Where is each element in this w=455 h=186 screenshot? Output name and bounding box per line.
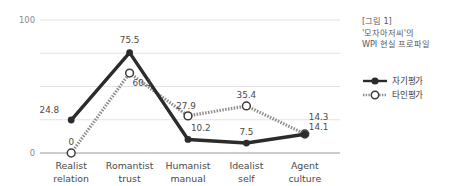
data-point-self [243, 140, 250, 147]
x-axis-labels-group: RealistrelationRomantisttrustHumanistman… [53, 160, 321, 184]
x-axis-category-label: Agent [291, 160, 319, 171]
data-value-labels-group: 060.127.935.414.324.875.510.27.514.1 [40, 35, 329, 147]
x-axis-category-label: Humanist [166, 160, 211, 171]
chart-plot-area: 1000 RealistrelationRomantisttrustHumani… [0, 0, 350, 186]
line-chart-svg: 1000 RealistrelationRomantisttrustHumani… [0, 0, 350, 186]
chart-legend: 자기평가 타인평가 [361, 73, 453, 101]
data-point-self [68, 117, 75, 124]
x-axis-category-label: self [238, 173, 255, 184]
value-label-other: 35.4 [237, 90, 257, 100]
value-label-other: 27.9 [176, 101, 196, 111]
legend-dotted-line-marker-icon [361, 87, 389, 101]
value-label-self: 75.5 [120, 35, 140, 45]
data-point-self [301, 131, 308, 138]
x-axis-category-label: Realist [56, 160, 88, 171]
caption-line-3: WPI 현실 프로파일 [362, 39, 454, 51]
legend-item-other: 타인평가 [361, 87, 453, 101]
y-axis-tick-label: 100 [19, 15, 35, 25]
chart-figure: 1000 RealistrelationRomantisttrustHumani… [0, 0, 455, 186]
caption-line-1: [그림 1] [362, 16, 454, 28]
value-label-self: 24.8 [40, 105, 60, 115]
data-point-other [184, 112, 192, 120]
series-self-segment [188, 139, 246, 143]
y-axis-tick-label: 0 [30, 148, 35, 158]
x-axis-category-label: relation [53, 173, 89, 184]
series-self-segment [130, 53, 188, 140]
value-label-other: 0 [68, 137, 74, 147]
value-label-other: 14.3 [309, 112, 329, 122]
data-point-self [185, 136, 192, 143]
y-axis-labels-group: 1000 [19, 15, 35, 158]
x-axis-category-label: manual [170, 173, 205, 184]
figure-caption: [그림 1] '모자아저씨'의 WPI 현실 프로파일 [362, 16, 454, 51]
series-self-segment [246, 134, 304, 143]
x-axis-category-label: culture [288, 173, 321, 184]
x-axis-category-label: Romantist [106, 160, 154, 171]
legend-label-self: 자기평가 [389, 74, 423, 86]
legend-label-other: 타인평가 [389, 88, 423, 100]
data-point-other [67, 149, 75, 157]
value-label-self: 10.2 [191, 123, 211, 133]
legend-solid-line-marker-icon [361, 73, 389, 87]
data-point-other [243, 102, 251, 110]
series-self-group [68, 49, 308, 146]
x-axis-category-label: trust [119, 173, 141, 184]
data-point-other [126, 69, 134, 77]
caption-line-2: '모자아저씨'의 [362, 28, 454, 40]
x-axis-category-label: Idealist [229, 160, 263, 171]
value-label-self: 7.5 [239, 127, 253, 137]
data-point-self [126, 49, 133, 56]
value-label-self: 14.1 [309, 122, 329, 132]
legend-item-self: 자기평가 [361, 73, 453, 87]
value-label-other: 60.1 [133, 78, 153, 88]
series-other-segment [188, 106, 246, 116]
